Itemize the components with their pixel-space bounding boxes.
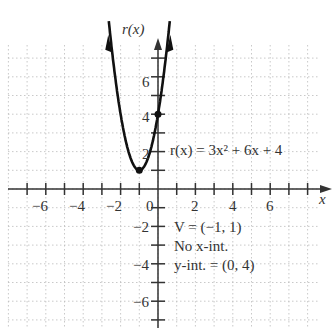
y-tick-label: 4 bbox=[142, 109, 150, 125]
x-tick-label: −4 bbox=[69, 198, 85, 214]
grid-lines bbox=[8, 45, 320, 328]
y-intercept-label: y-int. = (0, 4) bbox=[174, 257, 255, 274]
y-tick-label: 2 bbox=[142, 146, 150, 162]
x-tick-label: 2 bbox=[191, 198, 199, 214]
axes bbox=[8, 38, 332, 328]
vertex-label: V = (−1, 1) bbox=[174, 219, 241, 236]
graph-figure: r(x) x 0 −6 −4 −2 2 4 6 6 4 2 −2 −4 −6 r… bbox=[0, 0, 332, 328]
graph-canvas: r(x) x 0 −6 −4 −2 2 4 6 6 4 2 −2 −4 −6 r… bbox=[0, 0, 332, 328]
function-label: r(x) = 3x² + 6x + 4 bbox=[170, 142, 283, 159]
key-points bbox=[105, 35, 173, 174]
x-axis-label: x bbox=[318, 191, 326, 207]
x-tick-label: 4 bbox=[229, 198, 237, 214]
y-tick-label: −4 bbox=[133, 257, 149, 273]
origin-label: 0 bbox=[146, 198, 154, 214]
x-tick-label: −6 bbox=[32, 198, 48, 214]
y-axis-label: r(x) bbox=[122, 21, 145, 38]
vertex-point bbox=[136, 167, 143, 174]
y-tick-label: −6 bbox=[133, 294, 149, 310]
x-tick-label: 6 bbox=[266, 198, 274, 214]
y-tick-label: −2 bbox=[133, 219, 149, 235]
no-x-intercept-label: No x-int. bbox=[174, 238, 228, 254]
parabola-curve bbox=[109, 21, 170, 170]
y-tick-label: 6 bbox=[142, 74, 150, 90]
x-tick-label: −2 bbox=[106, 198, 122, 214]
y-intercept-point bbox=[155, 111, 162, 118]
